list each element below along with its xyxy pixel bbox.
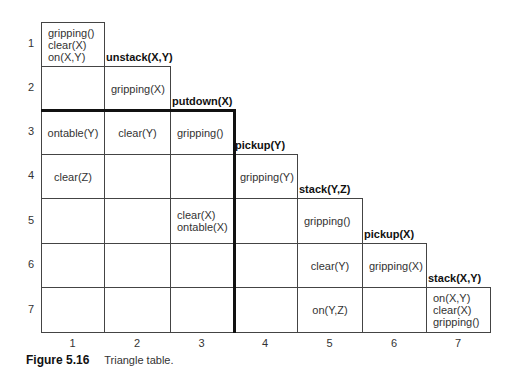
table-cell: gripping() xyxy=(170,110,234,155)
table-cell: on(X,Y)clear(X)gripping() xyxy=(426,287,491,333)
predicate: clear(X) xyxy=(177,209,233,221)
table-cell: clear(Y) xyxy=(104,110,171,155)
table-cell xyxy=(170,154,234,199)
row-label: 3 xyxy=(23,125,39,137)
operator-label: unstack(X,Y) xyxy=(106,51,173,63)
kernel-boundary-top xyxy=(41,109,236,112)
table-cell: gripping(Y) xyxy=(233,154,298,199)
table-cell: clear(Z) xyxy=(41,154,105,199)
table-cell xyxy=(233,198,298,244)
predicate: on(X,Y) xyxy=(433,292,490,304)
predicate: ontable(Y) xyxy=(48,127,99,139)
table-cell xyxy=(41,66,105,111)
predicate: gripping(X) xyxy=(111,83,170,95)
column-label: 2 xyxy=(129,337,145,349)
table-cell: gripping(X) xyxy=(362,243,427,288)
table-cell xyxy=(104,287,171,333)
predicate: gripping() xyxy=(433,316,490,328)
row-label: 4 xyxy=(23,169,39,181)
predicate: clear(X) xyxy=(433,304,490,316)
table-cell xyxy=(41,198,105,244)
operator-label: putdown(X) xyxy=(172,95,232,107)
column-label: 3 xyxy=(194,337,210,349)
table-cell xyxy=(104,154,171,199)
table-cell xyxy=(170,243,234,288)
table-cell: clear(X)ontable(X) xyxy=(170,198,234,244)
column-label: 6 xyxy=(386,337,402,349)
table-cell xyxy=(362,287,427,333)
predicate: gripping(Y) xyxy=(240,171,297,183)
table-cell: on(Y,Z) xyxy=(297,287,363,333)
column-label: 1 xyxy=(65,337,81,349)
table-cell: gripping()clear(X)on(X,Y) xyxy=(41,22,105,67)
column-label: 7 xyxy=(450,337,466,349)
predicate: gripping() xyxy=(304,215,362,227)
operator-label: stack(Y,Z) xyxy=(299,183,350,195)
table-cell xyxy=(104,198,171,244)
column-label: 5 xyxy=(322,337,338,349)
predicate: on(X,Y) xyxy=(48,51,104,63)
table-cell: ontable(Y) xyxy=(41,110,105,155)
table-cell: gripping() xyxy=(297,198,363,244)
predicate: gripping() xyxy=(177,127,233,139)
table-cell xyxy=(170,287,234,333)
operator-label: stack(X,Y) xyxy=(428,272,481,284)
predicate: on(Y,Z) xyxy=(312,304,347,316)
figure-number: Figure 5.16 xyxy=(26,353,89,367)
predicate: clear(X) xyxy=(48,39,104,51)
predicate: clear(Y) xyxy=(118,127,157,139)
row-label: 6 xyxy=(23,258,39,270)
row-label: 7 xyxy=(23,303,39,315)
predicate: ontable(X) xyxy=(177,221,233,233)
row-label: 2 xyxy=(23,81,39,93)
predicate: clear(Z) xyxy=(54,171,92,183)
figure-caption: Figure 5.16 Triangle table. xyxy=(26,353,174,367)
table-cell xyxy=(41,287,105,333)
predicate: clear(Y) xyxy=(311,260,350,272)
row-label: 1 xyxy=(23,37,39,49)
table-cell xyxy=(233,243,298,288)
table-cell xyxy=(233,287,298,333)
kernel-boundary-right xyxy=(233,109,236,333)
operator-label: pickup(X) xyxy=(364,228,414,240)
column-label: 4 xyxy=(257,337,273,349)
row-label: 5 xyxy=(23,214,39,226)
operator-label: pickup(Y) xyxy=(235,139,285,151)
predicate: gripping(X) xyxy=(369,260,426,272)
table-cell: clear(Y) xyxy=(297,243,363,288)
table-cell xyxy=(104,243,171,288)
table-cell xyxy=(41,243,105,288)
table-cell: gripping(X) xyxy=(104,66,171,111)
predicate: gripping() xyxy=(48,27,104,39)
figure-title: Triangle table. xyxy=(104,354,173,366)
